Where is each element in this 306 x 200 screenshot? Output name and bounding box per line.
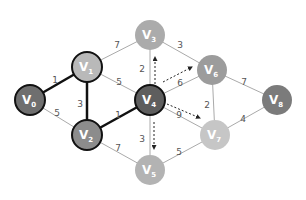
node-v3: V3 bbox=[135, 20, 165, 50]
node-v0: V0 bbox=[15, 85, 45, 115]
graph-diagram: 1537517236395274 V0V1V2V3V4V5V6V7V8 bbox=[0, 0, 306, 200]
dashed-arrow-v4-to-v7-icon bbox=[167, 104, 200, 118]
edge-weight-label: 5 bbox=[116, 77, 122, 87]
edge-weight-label: 3 bbox=[177, 40, 183, 50]
edge-weight-label: 1 bbox=[52, 75, 58, 85]
node-v8: V8 bbox=[262, 85, 292, 115]
edge-weight-label: 7 bbox=[241, 77, 247, 87]
edge-weight-label: 9 bbox=[176, 110, 182, 120]
node-v1: V1 bbox=[72, 52, 102, 82]
edge-weight-label: 7 bbox=[114, 40, 120, 50]
edge-weight-label: 5 bbox=[54, 108, 60, 118]
node-v7: V7 bbox=[200, 120, 230, 150]
node-v4: V4 bbox=[135, 85, 165, 115]
node-v5: V5 bbox=[135, 155, 165, 185]
edge-weight-label: 3 bbox=[139, 134, 145, 144]
edge-weight-label: 3 bbox=[77, 99, 83, 109]
edge-weight-label: 7 bbox=[115, 143, 121, 153]
node-layer: V0V1V2V3V4V5V6V7V8 bbox=[15, 20, 292, 185]
node-v6: V6 bbox=[197, 55, 227, 85]
node-v2: V2 bbox=[72, 120, 102, 150]
edge-weight-label: 5 bbox=[176, 147, 182, 157]
edge-weight-label: 1 bbox=[115, 110, 121, 120]
edge-weight-label: 6 bbox=[177, 78, 183, 88]
edge-weight-label: 4 bbox=[240, 114, 246, 124]
edge-weight-label: 2 bbox=[139, 64, 145, 74]
edge-weight-label: 2 bbox=[204, 100, 210, 110]
